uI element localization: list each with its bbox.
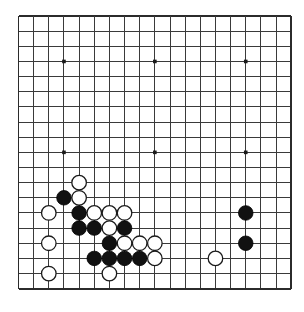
star-point (153, 151, 157, 155)
go-board[interactable] (0, 0, 304, 312)
white-stone[interactable] (87, 206, 102, 221)
black-stone[interactable] (238, 206, 253, 221)
white-stone[interactable] (132, 236, 147, 251)
star-point (62, 151, 66, 155)
black-stone[interactable] (117, 221, 132, 236)
black-stone[interactable] (87, 251, 102, 266)
black-stone[interactable] (87, 221, 102, 236)
goban-svg[interactable] (0, 0, 304, 312)
black-stone[interactable] (72, 221, 87, 236)
white-stone[interactable] (102, 206, 117, 221)
white-stone[interactable] (208, 251, 223, 266)
white-stone[interactable] (117, 236, 132, 251)
black-stone[interactable] (238, 236, 253, 251)
white-stone[interactable] (102, 266, 117, 281)
white-stone[interactable] (148, 251, 163, 266)
black-stone[interactable] (57, 191, 72, 206)
black-stone[interactable] (102, 251, 117, 266)
white-stone[interactable] (148, 236, 163, 251)
black-stone[interactable] (132, 251, 147, 266)
white-stone[interactable] (72, 175, 87, 190)
white-stone[interactable] (42, 236, 57, 251)
white-stone[interactable] (102, 221, 117, 236)
black-stone[interactable] (72, 206, 87, 221)
star-point (244, 151, 248, 155)
white-stone[interactable] (72, 191, 87, 206)
white-stone[interactable] (42, 266, 57, 281)
go-board-screenshot (0, 0, 304, 312)
star-point (62, 60, 66, 64)
black-stone[interactable] (117, 251, 132, 266)
star-point (153, 60, 157, 64)
white-stone[interactable] (42, 206, 57, 221)
white-stone[interactable] (117, 206, 132, 221)
black-stone[interactable] (102, 236, 117, 251)
star-point (244, 60, 248, 64)
